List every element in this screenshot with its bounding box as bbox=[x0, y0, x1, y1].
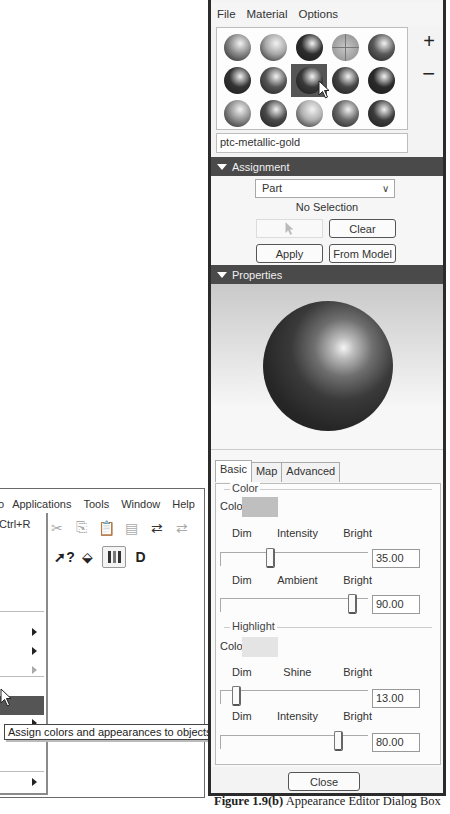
dim-label: Dim bbox=[232, 666, 252, 678]
regenerate-disabled-icon[interactable]: ⇄ bbox=[173, 519, 190, 536]
ambient-label: Ambient bbox=[277, 574, 317, 586]
color-bars-button[interactable] bbox=[102, 546, 126, 568]
remove-material-button[interactable]: − bbox=[422, 63, 435, 85]
submenu-arrow-icon[interactable] bbox=[32, 647, 37, 655]
slider-thumb[interactable] bbox=[348, 594, 357, 614]
apply-button[interactable]: Apply bbox=[256, 244, 323, 263]
paste-special-icon[interactable]: ▤ bbox=[123, 519, 140, 536]
select-objects-button[interactable] bbox=[256, 219, 323, 238]
slider-thumb[interactable] bbox=[232, 686, 241, 706]
highlight-color-swatch[interactable] bbox=[242, 637, 278, 657]
appearance-editor-dialog: File Material Options + − ptc-metallic-g… bbox=[208, 0, 446, 796]
add-material-button[interactable]: + bbox=[423, 31, 435, 51]
material-sphere-icon bbox=[296, 34, 323, 61]
from-model-button[interactable]: From Model bbox=[329, 244, 396, 263]
highlight-intensity-slider[interactable] bbox=[220, 735, 368, 749]
menu-help[interactable]: Help bbox=[172, 498, 195, 510]
color-bars-icon bbox=[108, 551, 121, 563]
material-sphere-icon bbox=[260, 34, 287, 61]
submenu-arrow-icon[interactable] bbox=[32, 778, 37, 786]
menu-options[interactable]: Options bbox=[298, 8, 338, 20]
material-palette bbox=[216, 27, 408, 130]
material-swatch[interactable] bbox=[327, 31, 363, 64]
chevron-down-icon: ∨ bbox=[382, 183, 389, 194]
appearance-icon[interactable]: ⬙ bbox=[79, 549, 96, 566]
menu-file[interactable]: File bbox=[217, 8, 236, 20]
bright-label: Bright bbox=[343, 710, 372, 722]
regenerate-icon[interactable]: ⇄ bbox=[148, 519, 165, 536]
material-sphere-icon bbox=[260, 100, 287, 127]
intensity-slider[interactable] bbox=[220, 552, 368, 566]
material-swatch[interactable] bbox=[219, 64, 255, 97]
material-sphere-icon bbox=[332, 67, 359, 94]
slider-thumb[interactable] bbox=[266, 548, 275, 568]
submenu-arrow-icon bbox=[32, 666, 37, 674]
material-swatch[interactable] bbox=[363, 31, 399, 64]
tab-advanced[interactable]: Advanced bbox=[281, 462, 340, 482]
shine-value-field[interactable]: 13.00 bbox=[372, 689, 420, 708]
material-sphere-icon bbox=[224, 67, 251, 94]
preview-sphere bbox=[263, 301, 393, 431]
properties-tabs-area: Basic Map Advanced Color Color Dim Inten… bbox=[211, 449, 443, 767]
material-swatch[interactable] bbox=[327, 97, 363, 130]
assignment-type-select[interactable]: Part ∨ bbox=[255, 179, 395, 198]
cut-icon[interactable]: ✂ bbox=[48, 519, 65, 536]
material-sphere-icon bbox=[260, 67, 287, 94]
menu-material[interactable]: Material bbox=[247, 8, 288, 20]
material-swatch[interactable] bbox=[255, 97, 291, 130]
menu-partial-item[interactable]: o bbox=[0, 498, 4, 510]
selection-status: No Selection bbox=[211, 201, 443, 213]
highlight-intensity-value-field[interactable]: 80.00 bbox=[372, 733, 420, 752]
menu-separator bbox=[0, 771, 44, 772]
properties-section-header[interactable]: Properties bbox=[211, 265, 443, 284]
bright-label: Bright bbox=[343, 527, 372, 539]
mouse-cursor-icon bbox=[0, 688, 14, 708]
shine-labels: Dim Shine Bright bbox=[232, 666, 372, 678]
toolbar-row-2: ➚? ⬙ D bbox=[56, 546, 149, 568]
material-sphere-icon bbox=[368, 67, 395, 94]
material-swatch[interactable] bbox=[363, 64, 399, 97]
copy-icon[interactable]: ⎘ bbox=[73, 519, 90, 536]
material-name-field[interactable]: ptc-metallic-gold bbox=[216, 133, 408, 153]
clear-button[interactable]: Clear bbox=[329, 219, 396, 238]
material-sphere-icon bbox=[368, 100, 395, 127]
ambient-value-field[interactable]: 90.00 bbox=[372, 595, 420, 614]
material-swatch[interactable] bbox=[255, 64, 291, 97]
submenu-arrow-icon[interactable] bbox=[32, 628, 37, 636]
menu-tools[interactable]: Tools bbox=[83, 498, 109, 510]
properties-header-label: Properties bbox=[232, 269, 282, 281]
material-sphere-icon bbox=[296, 100, 323, 127]
material-swatch[interactable] bbox=[327, 64, 363, 97]
collapse-triangle-icon bbox=[217, 164, 227, 170]
dim-label: Dim bbox=[232, 527, 252, 539]
collapse-triangle-icon bbox=[217, 272, 227, 278]
slider-thumb[interactable] bbox=[334, 731, 343, 751]
tab-map[interactable]: Map bbox=[251, 462, 282, 482]
app-menubar: o Applications Tools Window Help bbox=[0, 495, 204, 513]
menu-applications[interactable]: Applications bbox=[12, 498, 71, 510]
datum-display-icon[interactable]: D bbox=[132, 549, 149, 566]
dialog-menubar: File Material Options bbox=[211, 2, 443, 26]
ambient-slider[interactable] bbox=[220, 598, 368, 612]
material-swatch[interactable] bbox=[363, 97, 399, 130]
menu-window[interactable]: Window bbox=[121, 498, 160, 510]
select-value: Part bbox=[262, 182, 282, 194]
close-button[interactable]: Close bbox=[288, 772, 360, 791]
application-window: o Applications Tools Window Help ✂ ⎘ 📋 ▤… bbox=[0, 488, 205, 798]
paste-icon[interactable]: 📋 bbox=[98, 519, 115, 536]
shine-slider[interactable] bbox=[220, 690, 368, 704]
color-swatch[interactable] bbox=[242, 497, 278, 517]
whats-this-icon[interactable]: ➚? bbox=[56, 549, 73, 566]
material-swatch[interactable] bbox=[255, 31, 291, 64]
material-swatch[interactable] bbox=[219, 31, 255, 64]
material-swatch[interactable] bbox=[219, 97, 255, 130]
material-swatch[interactable] bbox=[291, 31, 327, 64]
color-group-label: Color bbox=[230, 482, 260, 494]
assignment-section-header[interactable]: Assignment bbox=[211, 157, 443, 176]
intensity-label: Intensity bbox=[277, 710, 318, 722]
tab-basic[interactable]: Basic bbox=[215, 460, 252, 482]
material-swatch[interactable] bbox=[291, 97, 327, 130]
mouse-cursor-icon bbox=[318, 80, 332, 100]
intensity-value-field[interactable]: 35.00 bbox=[372, 549, 420, 568]
material-sphere-icon bbox=[332, 34, 359, 61]
